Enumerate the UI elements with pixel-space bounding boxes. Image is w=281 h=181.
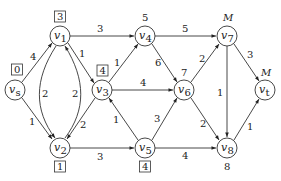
node-v1: v1 [50, 26, 70, 46]
edge-v3-v2: 2 [67, 98, 95, 139]
edge-weight: 3 [97, 151, 103, 162]
node-label-v4: 5 [142, 12, 148, 23]
node-v6: v6 [174, 80, 194, 100]
edge-v1-v2-left: 2 [39, 46, 56, 138]
edge-v8-vt: 1 [234, 99, 259, 140]
edge-weight: 3 [154, 113, 160, 124]
edge-weight: 1 [247, 121, 253, 132]
edge-v7-v8: 1 [217, 46, 227, 137]
edge-v4-v7: 5 [155, 23, 216, 36]
node-v8: v8 [217, 138, 237, 158]
svg-text:3: 3 [57, 11, 63, 22]
svg-text:6: 6 [185, 87, 191, 98]
svg-text:7: 7 [228, 33, 234, 44]
svg-text:0: 0 [14, 64, 20, 75]
node-v4: v4 [135, 26, 155, 46]
node-label-v3: 4 [97, 65, 108, 76]
edge-v1-v4: 3 [70, 23, 134, 36]
edge-v5-v6: 3 [152, 98, 177, 140]
edge-weight: 4 [140, 77, 146, 88]
edge-weight: 1 [29, 116, 35, 127]
edge-v5-v8: 4 [155, 148, 216, 161]
node-label-v7: M [222, 12, 234, 23]
svg-text:1: 1 [61, 33, 67, 44]
svg-text:4: 4 [100, 65, 106, 76]
node-vt: vt [255, 80, 275, 100]
svg-text:8: 8 [228, 145, 234, 156]
edge-v7-vt: 3 [234, 44, 259, 81]
node-label-v5: 4 [140, 161, 151, 172]
svg-text:t: t [266, 87, 270, 98]
graph-diagram: 4 1 2 2 1 2 3 1 4 3 1 6 [0, 0, 281, 181]
node-v7: v7 [217, 26, 237, 46]
edge-weight: 3 [247, 49, 253, 60]
node-label-v6: 7 [181, 67, 187, 78]
node-v5: v5 [135, 138, 155, 158]
edge-weight: 1 [217, 87, 223, 98]
edge-weight: 2 [80, 119, 86, 130]
svg-text:1: 1 [57, 161, 63, 172]
svg-text:5: 5 [146, 145, 152, 156]
node-v2: v2 [50, 138, 70, 158]
edge-v3-v4: 1 [109, 44, 138, 82]
svg-text:2: 2 [61, 145, 67, 156]
edge-weight: 6 [155, 57, 161, 68]
svg-text:4: 4 [146, 33, 152, 44]
node-v3: v3 [92, 80, 112, 100]
edge-weight: 4 [30, 51, 36, 62]
edge-v4-v6: 6 [152, 44, 177, 82]
node-vs: vs [5, 80, 25, 100]
edge-weight: 5 [182, 23, 188, 34]
node-label-v2: 1 [55, 161, 66, 172]
edge-weight: 1 [114, 57, 120, 68]
edge-v1-v3: 1 [68, 43, 94, 83]
edge-weight: 1 [79, 48, 85, 59]
svg-text:s: s [16, 87, 21, 98]
edge-v6-v7: 2 [191, 44, 219, 82]
node-label-vs: 0 [12, 64, 23, 75]
edge-weight: 2 [72, 88, 78, 99]
edge-weight: 2 [200, 118, 206, 129]
edge-weight: 2 [199, 53, 205, 64]
node-label-v1: 3 [55, 11, 66, 22]
svg-text:3: 3 [103, 87, 109, 98]
edge-vs-v1: 4 [22, 43, 52, 82]
edge-v6-v8: 2 [191, 98, 219, 140]
edge-weight: 4 [182, 150, 188, 161]
edge-v3-v6: 4 [112, 77, 173, 90]
edge-weight: 1 [113, 114, 119, 125]
edge-weight: 3 [97, 23, 103, 34]
edge-v2-v5: 3 [70, 148, 134, 162]
node-label-v8: 8 [224, 161, 230, 172]
edge-vs-v2: 1 [22, 98, 52, 139]
svg-text:4: 4 [142, 161, 148, 172]
edge-v5-v3: 1 [109, 98, 138, 140]
node-label-vt: M [260, 67, 272, 78]
edge-weight: 2 [42, 88, 48, 99]
